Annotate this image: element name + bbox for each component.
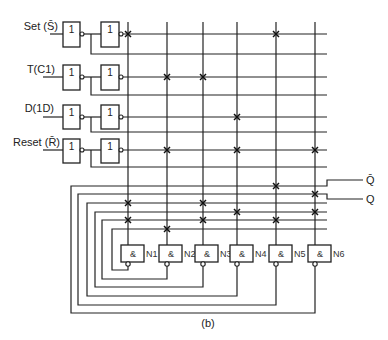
input-set: Set (S̄) 1 1 [24, 20, 327, 54]
inverter-bubble [274, 262, 278, 266]
input-label-set: Set (S̄) [24, 20, 58, 32]
and-symbol: & [239, 249, 245, 259]
input-reset: Reset (R̄) 1 1 [13, 136, 327, 167]
pla-flip-flop-diagram: Set (S̄) 1 1 T(C1) 1 1 D(1D) 1 1 [0, 0, 388, 340]
and-symbol: & [168, 249, 174, 259]
inverter-bubble [119, 115, 123, 119]
and-gate-n2: & N2 [159, 245, 196, 266]
svg-text:1: 1 [107, 141, 113, 152]
and-gate-n6: & N6 [308, 245, 345, 266]
inverter-bubble [126, 262, 130, 266]
and-gate-n4: & N4 [230, 245, 267, 266]
inverter-bubble [80, 115, 84, 119]
inverter-bubble [119, 32, 123, 36]
inverter-bubble [80, 75, 84, 79]
inverter-bubble [313, 262, 317, 266]
and-gate-n3: & N3 [195, 245, 232, 266]
svg-text:1: 1 [69, 24, 75, 35]
svg-text:1: 1 [69, 107, 75, 118]
input-t: T(C1) 1 1 [27, 63, 327, 95]
svg-text:1: 1 [107, 107, 113, 118]
and-gate-n1: & N1 [121, 245, 158, 266]
gate-label: N6 [333, 249, 345, 259]
gate-label: N1 [146, 249, 158, 259]
svg-text:1: 1 [107, 24, 113, 35]
inverter-bubble [80, 148, 84, 152]
output-q-bar-label: Q̄ [366, 174, 375, 186]
svg-text:1: 1 [69, 67, 75, 78]
svg-text:1: 1 [107, 67, 113, 78]
and-symbol: & [130, 249, 136, 259]
and-symbol: & [204, 249, 210, 259]
and-symbol: & [278, 249, 284, 259]
input-label-reset: Reset (R̄) [13, 136, 60, 148]
output-q-label: Q [366, 193, 375, 205]
inverter-bubble [235, 262, 239, 266]
outputs: Q̄ Q [366, 174, 375, 205]
inverter-bubble [119, 148, 123, 152]
gate-label: N5 [294, 249, 306, 259]
svg-text:1: 1 [69, 141, 75, 152]
figure-caption: (b) [201, 317, 214, 329]
input-label-t: T(C1) [27, 63, 55, 75]
inverter-bubble [80, 32, 84, 36]
gate-label: N4 [255, 249, 267, 259]
and-gate-n5: & N5 [269, 245, 306, 266]
inverter-bubble [119, 75, 123, 79]
inverter-bubble [201, 262, 205, 266]
and-symbol: & [317, 249, 323, 259]
inverter-bubble [165, 262, 169, 266]
gate-label: N2 [184, 249, 196, 259]
input-label-d: D(1D) [25, 102, 54, 114]
input-d: D(1D) 1 1 [25, 102, 327, 132]
